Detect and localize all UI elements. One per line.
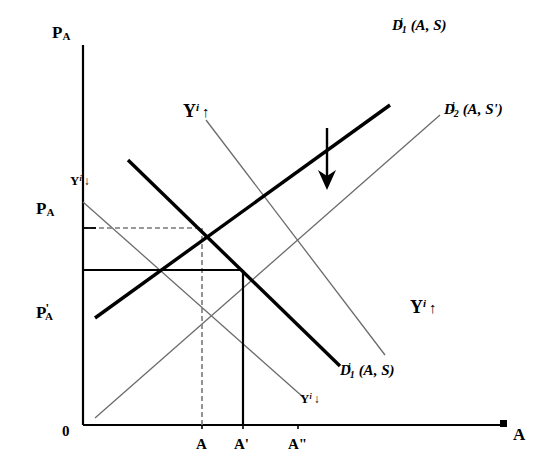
x-tick-label-A-prime: A' [234,437,249,452]
curve-label-demand-j2-args: (A, S') [463,101,503,117]
x-tick-label-A-prime-text: A' [234,436,249,452]
income-label-down-bottom: Yi↓ [300,392,320,405]
income-label-up-right-base: Y [410,297,423,317]
curve-label-demand-i1-subscript: 1 [350,369,355,380]
x-axis-title: A [513,426,525,443]
x-axis-title-base: A [513,425,525,444]
shift-down-arrow [318,128,336,190]
up-arrow-icon: ↑ [199,104,210,120]
supply-demand-figure: PA A 0 PA P'A A A' A" Dj1(A, S) Dj2(A, S… [0,0,559,475]
x-tick-label-A: A [196,437,207,452]
income-label-down-bottom-superscript: i [309,392,311,401]
down-arrow-icon-bottom: ↓ [312,392,320,406]
x-tick-label-A-double-prime-text: A" [288,436,307,452]
price-tick-lower-subscript: A [45,310,53,322]
origin-label-text: 0 [62,423,70,439]
x-tick-label-A-double-prime: A" [288,437,307,452]
curve-label-demand-j2-subscript: 2 [454,108,459,119]
price-tick-upper: PA [36,200,54,217]
up-arrow-icon-right: ↑ [426,300,437,316]
curve-label-demand-j1: Dj1(A, S) [392,16,446,33]
income-label-down-left-superscript: i [79,174,81,183]
x-tick-label-A-text: A [196,436,207,452]
price-tick-upper-base: P [36,199,46,218]
down-arrow-icon: ↓ [82,174,90,188]
origin-label: 0 [62,424,70,439]
income-label-up-top-base: Y [183,101,196,121]
income-label-up-right: Yi↑ [410,297,437,316]
income-label-down-left-base: Y [70,173,79,188]
price-tick-upper-subscript: A [46,206,54,218]
curve-label-demand-i1-args: (A, S) [359,362,395,378]
income-label-down-bottom-base: Y [300,391,309,406]
y-axis-title: PA [52,24,70,41]
y-axis-title-subscript: A [62,30,70,42]
curve-label-demand-i1: Di1(A, S) [340,361,394,378]
income-label-up-top: Yi↑ [183,101,210,120]
income-label-up-right-superscript: i [423,297,426,309]
curve-label-demand-j2: Dj2(A, S') [444,100,503,117]
income-label-up-top-superscript: i [196,101,199,113]
y-axis-title-base: P [52,23,62,42]
diagram-canvas [0,0,559,475]
price-tick-lower: P'A [36,300,58,321]
income-label-down-left: Yi↓ [70,174,90,187]
x-axis-end-cap [500,420,507,427]
curve-income-up-downward [206,120,385,355]
curve-label-demand-j1-subscript: 1 [402,24,407,35]
curve-label-demand-j1-args: (A, S) [411,17,447,33]
